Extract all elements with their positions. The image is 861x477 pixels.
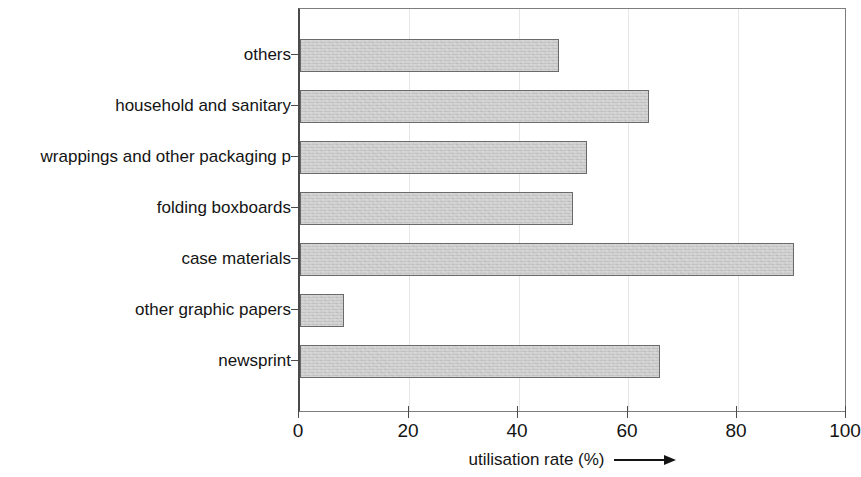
x-axis-tick: [517, 406, 518, 418]
gridline-80: [738, 9, 739, 411]
y-axis-label-others: others: [244, 38, 291, 71]
bar-chart: others household and sanitary wrappings …: [0, 0, 861, 477]
bar-row: [300, 141, 587, 174]
bar-newsprint[interactable]: [300, 345, 660, 378]
y-axis-tick: [291, 309, 299, 310]
bar-row: [300, 192, 573, 225]
x-axis-tick: [845, 406, 846, 418]
bar-folding-boxboards[interactable]: [300, 192, 573, 225]
x-axis-title-text: utilisation rate (%): [468, 450, 604, 470]
bar-row: [300, 243, 794, 276]
x-axis-tick: [408, 406, 409, 418]
y-axis-label-folding-boxboards: folding boxboards: [157, 191, 291, 224]
x-axis-tick-label-0: 0: [268, 420, 328, 442]
x-axis-tick-label-40: 40: [487, 420, 547, 442]
right-arrow-icon: [614, 455, 676, 465]
x-axis-tick: [627, 406, 628, 418]
y-axis-label-wrappings-and-other-packaging-p: wrappings and other packaging p: [41, 140, 291, 173]
bar-other-graphic-papers[interactable]: [300, 294, 344, 327]
y-axis-label-household-and-sanitary: household and sanitary: [115, 89, 291, 122]
x-axis-tick: [298, 406, 299, 418]
bar-row: [300, 39, 559, 72]
y-axis-label-case-materials: case materials: [181, 242, 291, 275]
y-axis-label-other-graphic-papers: other graphic papers: [135, 293, 291, 326]
y-axis-label-newsprint: newsprint: [218, 344, 291, 377]
bar-case-materials[interactable]: [300, 243, 794, 276]
y-axis-tick: [291, 258, 299, 259]
y-axis-tick: [291, 105, 299, 106]
plot-area: [298, 8, 846, 412]
x-axis-title: utilisation rate (%): [298, 450, 846, 470]
bar-row: [300, 294, 344, 327]
y-axis-tick: [291, 207, 299, 208]
x-axis-tick-label-100: 100: [815, 420, 861, 442]
y-axis-tick: [291, 54, 299, 55]
y-axis-tick: [291, 156, 299, 157]
x-axis-tick-label-80: 80: [706, 420, 766, 442]
bar-row: [300, 90, 649, 123]
bar-row: [300, 345, 660, 378]
y-axis-tick: [291, 360, 299, 361]
bar-wrappings-and-other-packaging-p[interactable]: [300, 141, 587, 174]
bar-household-and-sanitary[interactable]: [300, 90, 649, 123]
x-axis-tick-label-20: 20: [378, 420, 438, 442]
x-axis-tick: [736, 406, 737, 418]
x-axis-tick-label-60: 60: [597, 420, 657, 442]
bar-others[interactable]: [300, 39, 559, 72]
